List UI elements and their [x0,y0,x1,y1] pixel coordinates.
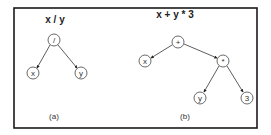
panel-b-caption: (b) [180,112,190,121]
edge-plus-mul [184,44,217,58]
edge-div-x [37,45,50,68]
node-y: y [194,92,206,104]
panel-b-title: x + y * 3 [156,9,194,20]
node-plus: + [172,36,184,48]
panel-a-caption: (a) [49,112,59,121]
node-label: x [143,57,147,66]
panel-a-title: x / y [45,14,65,25]
panel-a: x / y / x y (a) [27,14,87,121]
edge-mul-3 [227,66,243,92]
figure-frame [14,8,257,128]
node-label: x [31,69,35,78]
edge-div-y [58,45,77,68]
edge-mul-y [204,66,219,92]
node-multiply: * [217,55,229,67]
node-label: 3 [245,94,250,103]
node-divide: / [48,34,60,46]
node-label: y [79,69,83,78]
node-x: x [27,67,39,79]
node-label: * [221,57,224,66]
edge-plus-x [151,45,172,58]
node-y: y [75,67,87,79]
node-label: + [176,38,181,47]
node-label: y [198,94,202,103]
panel-b: x + y * 3 + x * y 3 (b) [139,9,253,121]
expression-tree-figure: x / y / x y (a) x + y * 3 + x [0,0,271,135]
node-x: x [139,55,151,67]
node-3: 3 [241,92,253,104]
